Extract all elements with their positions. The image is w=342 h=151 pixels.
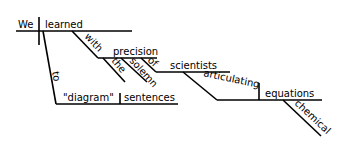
word-equations: equations: [265, 88, 314, 99]
word-infinitive-marker: to: [50, 70, 63, 82]
word-subject: We: [18, 19, 33, 30]
word-infinitive-verb: "diagram": [63, 92, 114, 103]
word-infinitive-object: sentences: [124, 92, 175, 103]
infinitive-diagonal: [43, 31, 56, 104]
word-verb: learned: [45, 19, 83, 30]
sentence-diagram: We learned to "diagram" sentences with p…: [0, 0, 342, 151]
word-articulating: articulating: [203, 67, 261, 90]
word-modifier-chemical: chemical: [293, 97, 333, 136]
word-preposition-with: with: [83, 31, 106, 54]
